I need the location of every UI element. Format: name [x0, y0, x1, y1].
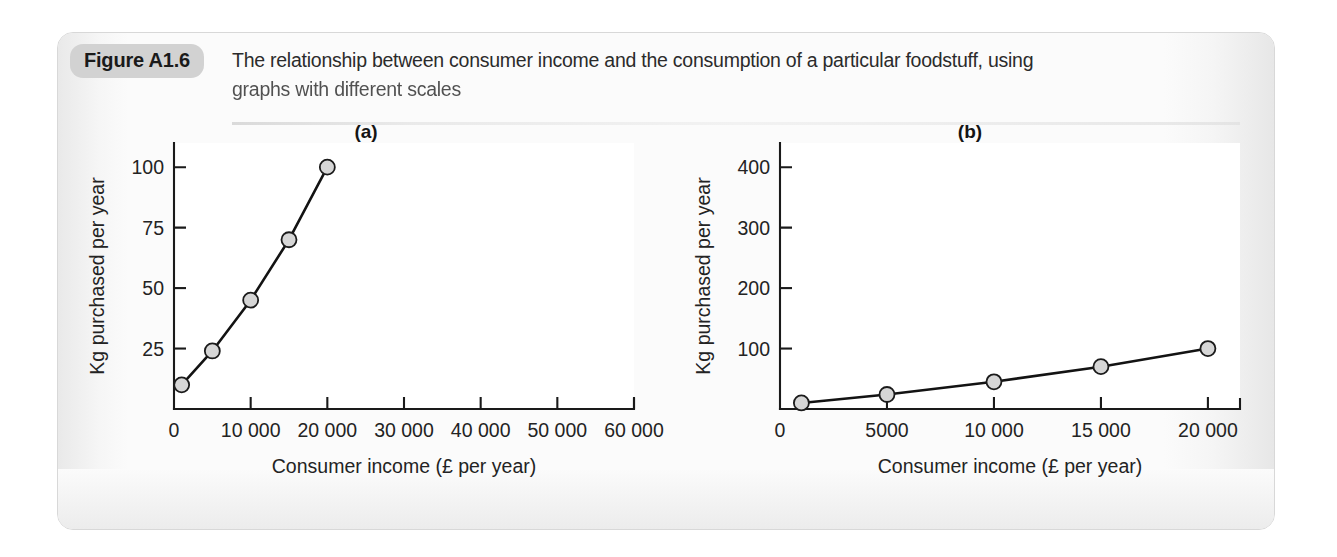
y-tick-label: 400 [737, 156, 770, 178]
x-tick-label: 50 000 [528, 419, 588, 441]
plot-background [780, 143, 1240, 409]
data-point-marker [1093, 359, 1108, 374]
plot-area-a: 255075100010 00020 00030 00040 00050 000… [66, 105, 666, 525]
chart-svg-b: 1002003004000500010 00015 00020 000Consu… [672, 105, 1268, 525]
x-tick-label: 0 [775, 419, 786, 441]
y-tick-label: 50 [142, 277, 164, 299]
caption-line-1: The relationship between consumer income… [232, 49, 1033, 71]
x-tick-label: 40 000 [451, 419, 511, 441]
data-point-marker [320, 160, 335, 175]
x-tick-label: 0 [169, 419, 180, 441]
y-axis-title: Kg purchased per year [692, 177, 714, 375]
data-point-marker [986, 374, 1001, 389]
data-point-marker [205, 343, 220, 358]
plot-area-b: 1002003004000500010 00015 00020 000Consu… [672, 105, 1268, 525]
y-tick-label: 100 [131, 156, 164, 178]
figure-caption-text: The relationship between consumer income… [232, 46, 1252, 104]
data-point-marker [243, 293, 258, 308]
x-tick-label: 10 000 [221, 419, 281, 441]
x-axis-title: Consumer income (£ per year) [878, 455, 1142, 477]
x-tick-label: 20 000 [298, 419, 358, 441]
y-tick-label: 300 [737, 217, 770, 239]
x-tick-label: 15 000 [1071, 419, 1131, 441]
figure-number-badge: Figure A1.6 [70, 44, 204, 78]
x-tick-label: 30 000 [374, 419, 434, 441]
x-tick-label: 60 000 [604, 419, 664, 441]
y-axis-title: Kg purchased per year [86, 177, 108, 375]
x-tick-label: 20 000 [1178, 419, 1238, 441]
y-tick-label: 25 [142, 338, 164, 360]
data-point-marker [1200, 341, 1215, 356]
data-point-marker [879, 387, 894, 402]
x-tick-label: 10 000 [964, 419, 1024, 441]
chart-svg-a: 255075100010 00020 00030 00040 00050 000… [66, 105, 666, 525]
y-tick-label: 75 [142, 217, 164, 239]
data-point-marker [174, 377, 189, 392]
data-point-marker [282, 232, 297, 247]
data-point-marker [794, 395, 809, 410]
x-axis-title: Consumer income (£ per year) [272, 455, 536, 477]
y-tick-label: 100 [737, 338, 770, 360]
y-tick-label: 200 [737, 277, 770, 299]
figure-card: Figure A1.6 The relationship between con… [57, 32, 1275, 530]
chart-panel-a: (a) 255075100010 00020 00030 00040 00050… [66, 105, 666, 525]
figure-caption: Figure A1.6 The relationship between con… [70, 44, 1260, 106]
plot-background [174, 143, 634, 409]
caption-line-2: graphs with different scales [232, 75, 1252, 104]
chart-panel-b: (b) 1002003004000500010 00015 00020 000C… [672, 105, 1268, 525]
x-tick-label: 5000 [865, 419, 909, 441]
